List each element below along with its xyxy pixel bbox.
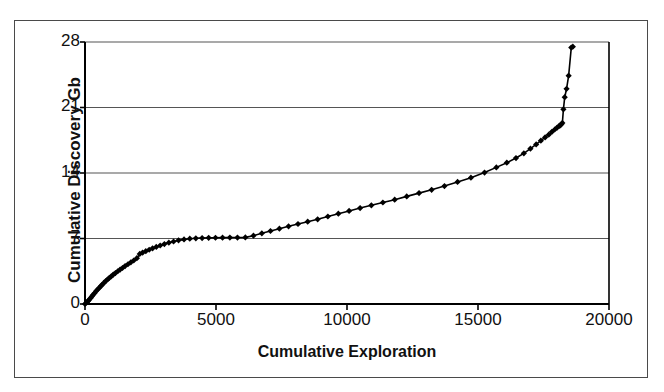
data-point-marker [199, 235, 205, 241]
data-point-marker [335, 211, 341, 217]
data-point-marker [404, 193, 410, 199]
data-point-marker [368, 202, 374, 208]
data-point-marker [193, 235, 199, 241]
data-point-marker [346, 208, 352, 214]
data-point-marker [504, 160, 510, 166]
gridlines [85, 42, 609, 239]
data-point-marker [206, 235, 212, 241]
data-point-marker [285, 223, 291, 229]
data-point-marker [242, 234, 248, 240]
data-point-marker [566, 73, 572, 79]
data-point-marker [181, 236, 187, 242]
data-point-marker [315, 216, 321, 222]
data-point-marker [416, 190, 422, 196]
data-point-marker [234, 234, 240, 240]
data-series-markers [82, 44, 576, 308]
data-point-marker [380, 199, 386, 205]
data-point-marker [481, 169, 487, 175]
data-point-marker [392, 197, 398, 203]
data-point-marker [227, 234, 233, 240]
data-point-marker [454, 179, 460, 185]
data-point-marker [219, 235, 225, 241]
data-point-marker [429, 187, 435, 193]
data-point-marker [170, 238, 176, 244]
data-series-line [85, 47, 573, 304]
data-point-marker [187, 236, 193, 242]
data-point-marker [250, 233, 256, 239]
data-point-marker [357, 205, 363, 211]
data-point-marker [276, 226, 282, 232]
data-point-marker [441, 183, 447, 189]
data-point-marker [259, 230, 265, 236]
data-point-marker [325, 213, 331, 219]
figure-root: Cumulative Discovery Gb 28 21 14 7 0 0 5… [0, 0, 664, 392]
axis-ticks [80, 42, 609, 310]
data-point-marker [305, 219, 311, 225]
data-point-marker [563, 86, 569, 92]
data-point-marker [493, 164, 499, 170]
plot-canvas [0, 0, 664, 392]
data-point-marker [295, 221, 301, 227]
data-point-marker [468, 175, 474, 181]
data-point-marker [267, 228, 273, 234]
data-point-marker [562, 94, 568, 100]
data-point-marker [212, 235, 218, 241]
